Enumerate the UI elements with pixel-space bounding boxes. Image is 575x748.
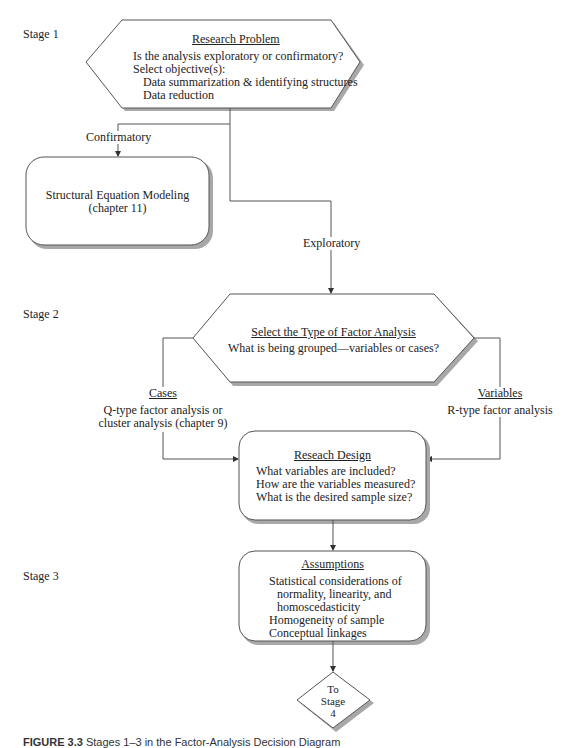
- stage-1-label: Stage 1: [23, 28, 59, 41]
- figure-caption-text: Stages 1–3 in the Factor-Analysis Decisi…: [86, 736, 340, 748]
- sem-line-2: (chapter 11): [26, 202, 209, 215]
- research-design-title: Reseach Design: [239, 449, 426, 462]
- research-problem-line-4: Data reduction: [143, 89, 214, 102]
- research-design-line-3: What is the desired sample size?: [256, 491, 412, 504]
- stage-3-label: Stage 3: [23, 570, 59, 583]
- cases-line-2: cluster analysis (chapter 9): [93, 417, 233, 430]
- stage-2-label: Stage 2: [23, 308, 59, 321]
- assumptions-line-5: Conceptual linkages: [269, 627, 367, 640]
- to-stage-line-1: To: [303, 683, 363, 695]
- cases-title: Cases: [103, 387, 223, 400]
- research-problem-title: Research Problem: [192, 33, 280, 46]
- assumptions-title: Assumptions: [239, 558, 426, 571]
- factor-type-question: What is being grouped—variables or cases…: [193, 342, 474, 355]
- confirmatory-label: Confirmatory: [86, 131, 151, 144]
- exploratory-label: Exploratory: [303, 237, 360, 250]
- figure-caption: FIGURE 3.3 Stages 1–3 in the Factor-Anal…: [23, 736, 340, 748]
- to-stage-line-2: Stage: [303, 695, 363, 707]
- factor-type-hexagon: [193, 294, 478, 386]
- variables-line-1: R-type factor analysis: [440, 404, 560, 417]
- factor-type-title: Select the Type of Factor Analysis: [193, 326, 474, 339]
- variables-title: Variables: [445, 387, 555, 400]
- figure-caption-label: FIGURE 3.3: [23, 736, 83, 748]
- to-stage-line-3: 4: [303, 707, 363, 719]
